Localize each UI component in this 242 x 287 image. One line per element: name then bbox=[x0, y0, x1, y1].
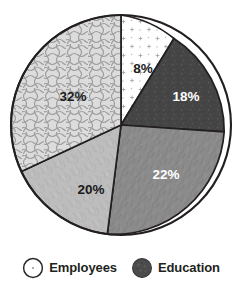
chart-legend: Employees Education bbox=[0, 248, 242, 287]
legend-swatch-employees-icon bbox=[22, 257, 44, 279]
pie-slice-label-18: 18% bbox=[172, 89, 199, 104]
pie-slice-label-32: 32% bbox=[59, 89, 86, 104]
pie-chart-svg: 8% 18% 22% 20% 32% bbox=[0, 0, 242, 250]
pie-slice-label-20: 20% bbox=[77, 182, 104, 197]
legend-item-education[interactable]: Education bbox=[131, 257, 220, 279]
legend-label-employees: Employees bbox=[49, 260, 117, 275]
pie-slice-label-8: 8% bbox=[133, 61, 153, 76]
pie-chart-plot-area: 8% 18% 22% 20% 32% bbox=[0, 0, 242, 250]
legend-item-employees[interactable]: Employees bbox=[22, 257, 117, 279]
legend-swatch-education-icon bbox=[131, 257, 153, 279]
pie-chart-figure: 8% 18% 22% 20% 32% Employees bbox=[0, 0, 242, 287]
legend-label-education: Education bbox=[158, 260, 220, 275]
pie-slice-label-22: 22% bbox=[152, 167, 179, 182]
